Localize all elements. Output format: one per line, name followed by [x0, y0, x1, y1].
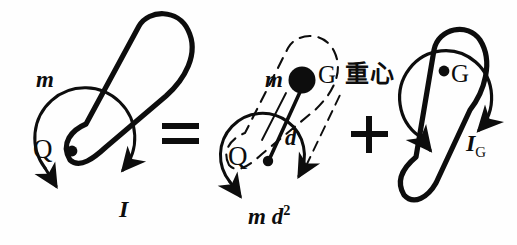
right-inertia-label: IG [466, 131, 486, 160]
middle-cg-label-japanese: 重心 [345, 62, 395, 86]
left-pivot-label: Q [33, 136, 53, 163]
middle-cg-label: G [318, 62, 336, 87]
middle-panel-group [220, 36, 340, 196]
left-mass-label: m [36, 68, 54, 91]
right-panel-group [400, 29, 492, 200]
middle-pivot-dot [263, 156, 273, 166]
right-inertia-base: I [466, 130, 475, 156]
right-body-outline [400, 29, 486, 200]
middle-mass-label: m [265, 68, 283, 91]
middle-point-mass [289, 67, 316, 94]
right-cg-label: G [451, 61, 469, 86]
middle-pivot-label: Q [228, 143, 248, 170]
parallel-axis-theorem-figure: m Q I m G 重心 d Q m d2 G IG [0, 0, 517, 245]
middle-distance-label: d [285, 126, 297, 149]
plus-operator [351, 116, 388, 153]
middle-rotation-arc-tail [230, 182, 240, 196]
middle-term-label: m d2 [248, 203, 290, 228]
left-pivot-dot [67, 146, 78, 157]
left-inertia-label: I [119, 197, 128, 221]
equals-operator [162, 123, 199, 144]
left-rotation-arc-tail [45, 168, 56, 186]
left-panel-group [35, 14, 192, 186]
right-centroid-dot [439, 66, 450, 77]
middle-cg-leader-line [306, 95, 340, 166]
middle-term-exponent: 2 [283, 202, 290, 218]
middle-term-base: m d [248, 204, 283, 229]
right-inertia-subscript: G [475, 144, 486, 160]
